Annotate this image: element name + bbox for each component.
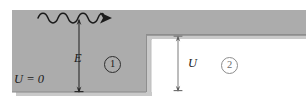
region-two-marker: 2 xyxy=(221,57,238,74)
potential-step-diagram: U = 0 E U 1 2 xyxy=(0,0,306,111)
region-one-marker: 1 xyxy=(104,56,121,73)
diagram-canvas xyxy=(0,0,306,111)
potential-zero-label: U = 0 xyxy=(14,73,44,86)
potential-step-label: U xyxy=(188,57,197,70)
energy-label: E xyxy=(74,52,82,65)
